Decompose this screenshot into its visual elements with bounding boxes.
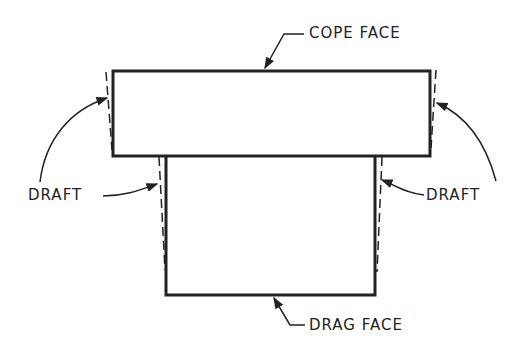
- draft-left-label: DRAFT: [28, 186, 82, 204]
- drag-face-label: DRAG FACE: [309, 316, 403, 334]
- draft-right-label: DRAFT: [426, 186, 480, 204]
- casting-diagram: [0, 0, 525, 344]
- cope-block: [113, 71, 430, 156]
- leader-lines: [40, 34, 496, 325]
- cope-face-label: COPE FACE: [309, 24, 401, 42]
- drag-block: [166, 156, 375, 295]
- draft-lines: [106, 70, 436, 272]
